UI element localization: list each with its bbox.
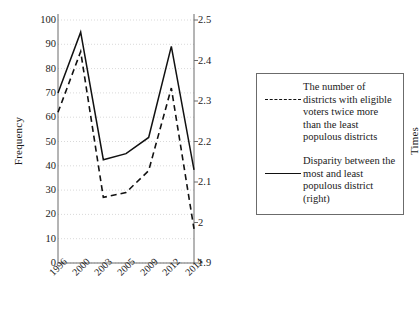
legend-entry-dashed-label: The number of districts with eligible vo… bbox=[303, 81, 397, 144]
chart-figure: 0102030405060708090100 1.922.12.22.32.42… bbox=[0, 0, 419, 317]
right-axis-title: Times bbox=[408, 101, 419, 181]
legend-entry-dashed: The number of districts with eligible vo… bbox=[263, 81, 397, 144]
x-axis-tick-label: 2014 bbox=[183, 256, 205, 278]
legend-entry-solid: Disparity between the most and least pop… bbox=[263, 155, 397, 205]
left-axis-title: Frequency bbox=[12, 101, 24, 181]
x-axis-tick-label: 2005 bbox=[115, 256, 137, 278]
x-axis-tick-label: 2009 bbox=[138, 256, 160, 278]
legend-entry-solid-label: Disparity between the most and least pop… bbox=[303, 155, 397, 205]
x-axis-tick-label: 1996 bbox=[47, 256, 69, 278]
x-axis-tick-label: 2012 bbox=[160, 256, 182, 278]
x-axis-tick-label: 2000 bbox=[70, 256, 92, 278]
solid-line-key-icon bbox=[263, 167, 303, 181]
dashed-line-key-icon bbox=[263, 93, 303, 107]
x-axis-tick-label: 2003 bbox=[92, 256, 114, 278]
chart-legend: The number of districts with eligible vo… bbox=[256, 73, 404, 215]
